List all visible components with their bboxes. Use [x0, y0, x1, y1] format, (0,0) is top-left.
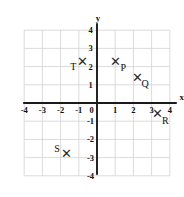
- point-marker-x-icon: ✕: [152, 106, 163, 121]
- x-tick-label: -2: [57, 105, 64, 115]
- x-tick-label: -3: [39, 105, 46, 115]
- x-tick-label: 1: [113, 105, 117, 115]
- y-tick-label: -4: [87, 171, 95, 181]
- y-tick-label: -1: [87, 116, 94, 126]
- point-label: P: [121, 62, 127, 73]
- point-label: Q: [142, 78, 150, 89]
- x-tick-label: 4: [168, 105, 173, 115]
- point-label: S: [54, 143, 60, 154]
- x-tick-label: 2: [131, 105, 135, 115]
- point-marker-x-icon: ✕: [61, 146, 72, 161]
- y-tick-label: -2: [87, 134, 94, 144]
- point-label: R: [162, 115, 169, 126]
- y-tick-label: 1: [88, 80, 92, 90]
- point-marker-x-icon: ✕: [77, 54, 88, 69]
- point-marker-x-icon: ✕: [110, 54, 121, 69]
- y-tick-label: -3: [87, 153, 94, 163]
- x-tick-label: -4: [21, 105, 29, 115]
- coordinate-plane-chart: -4-3-2-101234 4321-1-2-3-4 yx ✕P✕Q✕T✕R✕S: [0, 0, 184, 197]
- y-tick-label: 3: [88, 43, 92, 53]
- point-label: T: [70, 61, 76, 72]
- x-axis-name: x: [180, 92, 184, 102]
- y-tick-label: 2: [88, 62, 92, 72]
- y-axis-name: y: [96, 13, 101, 23]
- x-tick-label: -1: [75, 105, 82, 115]
- x-tick-label: 0: [89, 105, 93, 115]
